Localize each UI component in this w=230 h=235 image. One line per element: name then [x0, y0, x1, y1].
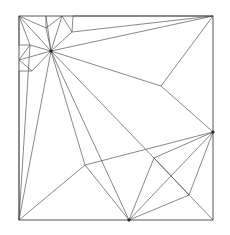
crease-line	[161, 16, 213, 86]
crease-line	[129, 158, 154, 220]
crease-line	[46, 16, 62, 28]
crease-lines	[19, 16, 213, 220]
crease-line	[129, 195, 189, 220]
crease-line	[19, 51, 51, 60]
crease-line	[46, 16, 51, 51]
crease-line	[51, 51, 129, 220]
crease-line	[85, 132, 213, 165]
crease-line	[85, 165, 129, 220]
crease-line	[51, 51, 85, 165]
vertex-dot	[211, 130, 214, 133]
crease-line	[62, 16, 72, 32]
crease-line	[19, 60, 32, 71]
crease-line	[161, 86, 213, 132]
crease-line	[154, 158, 189, 195]
crease-line	[189, 132, 213, 195]
crease-line	[19, 51, 51, 220]
crease-pattern-diagram	[0, 0, 230, 235]
vertex-dot	[49, 49, 52, 52]
crease-line	[51, 16, 213, 51]
crease-line	[19, 45, 30, 60]
vertex-dot	[127, 218, 130, 221]
crease-line	[72, 16, 213, 32]
crease-line	[72, 16, 73, 32]
crease-line	[19, 165, 85, 220]
